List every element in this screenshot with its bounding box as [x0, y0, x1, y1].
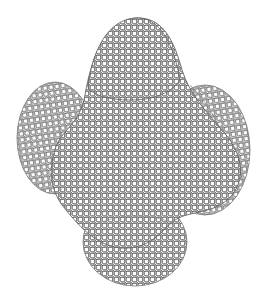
top-lobe	[88, 18, 180, 100]
voxel-figure	[0, 0, 265, 301]
voxel-blob-graphic	[0, 0, 265, 301]
